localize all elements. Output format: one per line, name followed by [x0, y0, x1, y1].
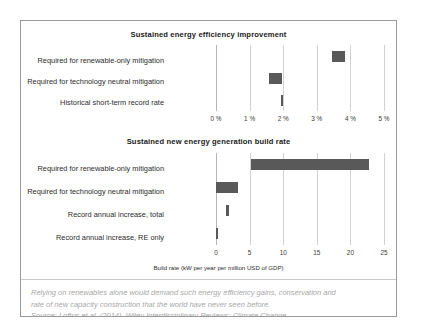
caption-line-2: rate of new capacity construction that t…	[31, 299, 386, 311]
bar-2	[226, 205, 229, 216]
gridline-0	[216, 45, 217, 111]
bar-2	[281, 95, 283, 106]
x-tick-label: 0	[214, 249, 218, 256]
gridline-2	[283, 45, 284, 111]
bar-1	[269, 73, 281, 84]
x-tick-label: 2 %	[278, 115, 289, 122]
plot-area-top	[216, 45, 384, 111]
caption-line-3: Source: Loftus et al. (2014), Wiley Inte…	[31, 310, 386, 317]
x-tick-label: 25	[380, 249, 387, 256]
cat-label-bottom-3: Record annual increase, RE only	[20, 234, 164, 241]
x-tick-label: 1 %	[244, 115, 255, 122]
cat-label-top-1: Required for technology neutral mitigati…	[20, 78, 164, 85]
figure-caption: Relying on renewables alone would demand…	[31, 287, 386, 317]
bar-0	[332, 51, 345, 62]
x-tick-label: 0 %	[210, 115, 221, 122]
gridline-3	[317, 45, 318, 111]
chart-panel-build-rate: Sustained new energy generation build ra…	[21, 133, 396, 279]
bar-3	[216, 228, 218, 239]
cat-label-bottom-0: Required for renewable-only mitigation	[20, 165, 164, 172]
cat-label-top-2: Historical short-term record rate	[20, 99, 164, 106]
caption-line-1: Relying on renewables alone would demand…	[31, 287, 386, 299]
bar-0	[251, 159, 369, 170]
cat-label-bottom-1: Required for technology neutral mitigati…	[20, 188, 164, 195]
x-tick-label: 20	[347, 249, 354, 256]
gridline-4	[350, 45, 351, 111]
x-tick-label: 3 %	[311, 115, 322, 122]
plot-area-bottom	[216, 153, 384, 245]
chart-panel-energy-efficiency: Sustained energy efficiency improvement …	[21, 27, 396, 139]
x-tick-label: 4 %	[345, 115, 356, 122]
cat-label-bottom-2: Record annual increase, total	[20, 211, 164, 218]
cat-label-top-0: Required for renewable-only mitigation	[20, 57, 164, 64]
chart-title-bottom: Sustained new energy generation build ra…	[21, 137, 396, 146]
x-tick-label: 5	[248, 249, 252, 256]
gridline-1	[250, 45, 251, 111]
caption-divider	[21, 279, 396, 280]
axis-title-build-rate: Build rate (kW per year per million USD …	[51, 264, 386, 271]
figure-frame: Sustained energy efficiency improvement …	[20, 20, 397, 317]
bar-1	[216, 182, 238, 193]
gridline-5	[384, 45, 385, 111]
x-tick-label: 15	[313, 249, 320, 256]
gridline-25	[384, 153, 385, 245]
chart-title-top: Sustained energy efficiency improvement	[21, 30, 396, 39]
x-tick-label: 5 %	[378, 115, 389, 122]
x-tick-label: 10	[280, 249, 287, 256]
